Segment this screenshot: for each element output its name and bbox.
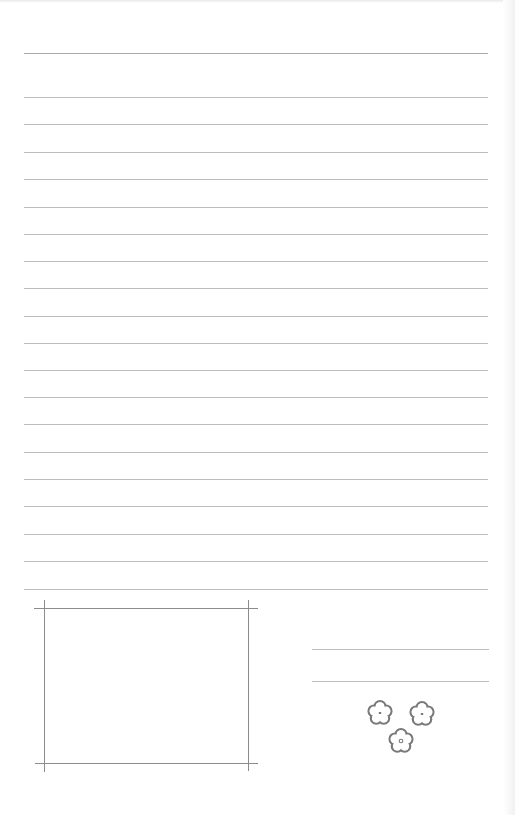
signature-line xyxy=(312,649,489,650)
ruled-line xyxy=(24,152,488,153)
ruled-line xyxy=(24,561,488,562)
flower-icon xyxy=(366,699,394,727)
ruled-line xyxy=(24,424,488,425)
ruled-line xyxy=(24,261,488,262)
frame-horizontal-line xyxy=(35,763,258,764)
ruled-line xyxy=(24,506,488,507)
flower-icon xyxy=(408,700,436,728)
ruled-line xyxy=(24,124,488,125)
frame-horizontal-line xyxy=(34,608,258,609)
ruled-line xyxy=(24,53,488,54)
ruled-line xyxy=(24,452,488,453)
ruled-line xyxy=(24,370,488,371)
ruled-line xyxy=(24,234,488,235)
ruled-line xyxy=(24,97,488,98)
ruled-line xyxy=(24,179,488,180)
frame-vertical-line xyxy=(248,600,249,771)
flower-icon xyxy=(387,727,415,755)
ruled-line xyxy=(24,479,488,480)
ruled-line xyxy=(24,207,488,208)
ruled-line xyxy=(24,397,488,398)
frame-vertical-line xyxy=(44,600,45,772)
signature-line xyxy=(312,681,489,682)
ruled-line xyxy=(24,589,488,590)
ruled-line xyxy=(24,316,488,317)
ruled-line xyxy=(24,343,488,344)
ruled-line xyxy=(24,534,488,535)
scan-edge-top xyxy=(0,0,515,3)
letter-paper xyxy=(0,0,515,815)
ruled-line xyxy=(24,288,488,289)
scan-edge-right xyxy=(503,0,515,815)
